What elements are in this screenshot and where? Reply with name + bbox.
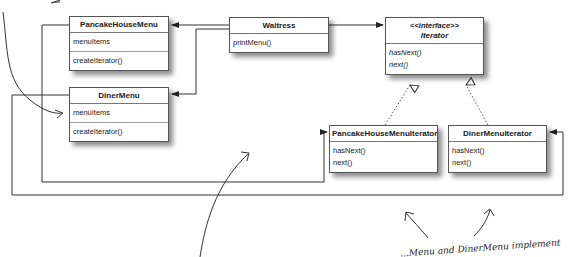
method: next() — [389, 59, 480, 71]
method: printMenu() — [233, 37, 325, 49]
method: next() — [333, 157, 434, 169]
class-pancake-house-menu-iterator: PancakeHouseMenuIterator hasNext() next(… — [329, 125, 438, 173]
stereotype: <<interface>> — [386, 18, 483, 30]
class-waitress: Waitress printMenu() — [229, 17, 329, 53]
class-diner-menu: DinerMenu menuItems createIterator() — [69, 87, 169, 142]
interface-name: Iterator — [386, 30, 483, 44]
interface-iterator: <<interface>> Iterator hasNext() next() — [385, 17, 484, 75]
class-diner-menu-iterator: DinerMenuIterator hasNext() next() — [448, 125, 547, 173]
class-name: DinerMenuIterator — [449, 126, 546, 142]
class-name: PancakeHouseMenuIterator — [330, 126, 437, 142]
method: hasNext() — [389, 47, 480, 59]
class-name: DinerMenu — [70, 88, 168, 104]
class-name: PancakeHouseMenu — [70, 17, 168, 33]
attribute: menuItems — [73, 36, 165, 48]
method: hasNext() — [452, 145, 543, 157]
method: next() — [452, 157, 543, 169]
method: hasNext() — [333, 145, 434, 157]
class-name: Waitress — [230, 18, 328, 34]
method: createIterator() — [73, 126, 165, 138]
class-pancake-house-menu: PancakeHouseMenu menuItems createIterato… — [69, 16, 169, 71]
attribute: menuItems — [73, 107, 165, 119]
method: createIterator() — [73, 55, 165, 67]
